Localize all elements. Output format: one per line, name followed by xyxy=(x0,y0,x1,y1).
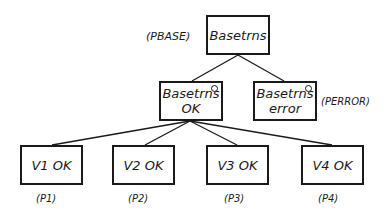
node-v1-ok[interactable]: V1 OK xyxy=(20,145,83,185)
node-v4-ok[interactable]: V4 OK xyxy=(301,145,364,185)
root-tag: (PBASE) xyxy=(146,30,190,43)
node-basetrns-error[interactable]: Basetrns error xyxy=(253,81,317,121)
circle-icon xyxy=(305,85,312,92)
node-label-line2: OK xyxy=(182,101,201,116)
error-tag: (PERROR) xyxy=(321,96,370,107)
node-v3-ok[interactable]: V3 OK xyxy=(206,145,269,185)
node-label-line2: error xyxy=(269,101,301,116)
node-v2-ok[interactable]: V2 OK xyxy=(112,145,175,185)
node-label: V2 OK xyxy=(123,158,163,173)
node-basetrns[interactable]: Basetrns xyxy=(206,15,270,55)
leaf-tag-p2: (P2) xyxy=(128,193,148,204)
circle-icon xyxy=(211,85,218,92)
leaf-tag-p3: (P3) xyxy=(224,193,244,204)
node-label: V4 OK xyxy=(312,158,352,173)
node-basetrns-ok[interactable]: Basetrns OK xyxy=(159,81,223,121)
node-label: Basetrns xyxy=(209,28,266,43)
leaf-tag-p4: (P4) xyxy=(318,193,338,204)
node-label: V3 OK xyxy=(217,158,257,173)
leaf-tag-p1: (P1) xyxy=(36,193,56,204)
node-label: V1 OK xyxy=(31,158,71,173)
